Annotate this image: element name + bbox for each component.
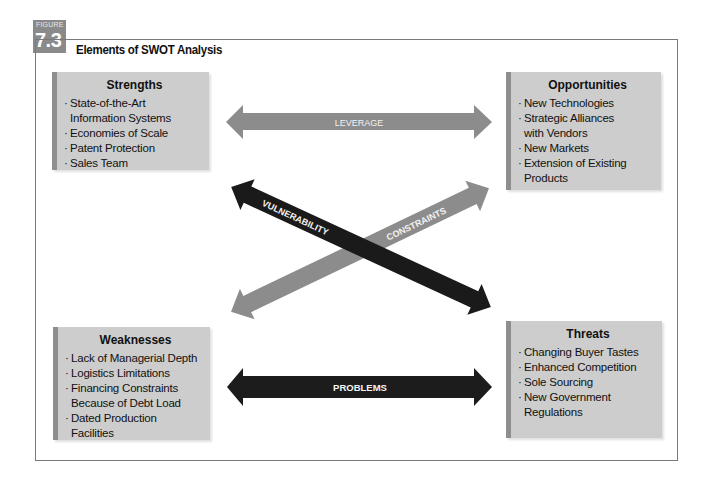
strengths-title: Strengths bbox=[64, 78, 201, 93]
leverage-arrow: LEVERAGE bbox=[226, 105, 492, 139]
list-item: Dated Production Facilities bbox=[65, 411, 202, 441]
list-item: Extension of Existing Products bbox=[518, 156, 649, 186]
weaknesses-title: Weaknesses bbox=[65, 333, 202, 348]
list-item: State-of-the-Art Information Systems bbox=[64, 96, 201, 126]
list-item: Enhanced Competition bbox=[518, 360, 654, 375]
strengths-box: Strengths State-of-the-Art Information S… bbox=[52, 72, 209, 170]
list-item: New Markets bbox=[518, 141, 653, 156]
list-item: Strategic Alliances with Vendors bbox=[518, 111, 634, 141]
strengths-list: State-of-the-Art Information Systems Eco… bbox=[64, 96, 201, 171]
list-item: New Technologies bbox=[518, 96, 653, 111]
list-item: Sole Sourcing bbox=[518, 375, 654, 390]
list-item: Changing Buyer Tastes bbox=[518, 345, 654, 360]
list-item: Financing Constraints Because of Debt Lo… bbox=[65, 381, 191, 411]
opportunities-list: New Technologies Strategic Alliances wit… bbox=[518, 96, 653, 186]
threats-box: Threats Changing Buyer Tastes Enhanced C… bbox=[506, 321, 662, 438]
weaknesses-list: Lack of Managerial Depth Logistics Limit… bbox=[65, 351, 202, 441]
list-item: Lack of Managerial Depth bbox=[65, 351, 202, 366]
weaknesses-box: Weaknesses Lack of Managerial Depth Logi… bbox=[53, 327, 210, 440]
threats-title: Threats bbox=[518, 327, 654, 342]
vulnerability-label: VULNERABILITY bbox=[260, 198, 330, 237]
threats-list: Changing Buyer Tastes Enhanced Competiti… bbox=[518, 345, 654, 420]
leverage-label: LEVERAGE bbox=[335, 118, 384, 128]
list-item: New Government Regulations bbox=[518, 390, 629, 420]
problems-arrow: PROBLEMS bbox=[227, 368, 492, 406]
list-item: Patent Protection bbox=[64, 141, 201, 156]
problems-label: PROBLEMS bbox=[333, 382, 387, 393]
list-item: Sales Team bbox=[64, 156, 201, 171]
list-item: Logistics Limitations bbox=[65, 366, 202, 381]
list-item: Economies of Scale bbox=[64, 126, 201, 141]
opportunities-title: Opportunities bbox=[518, 78, 653, 93]
opportunities-box: Opportunities New Technologies Strategic… bbox=[506, 72, 661, 190]
